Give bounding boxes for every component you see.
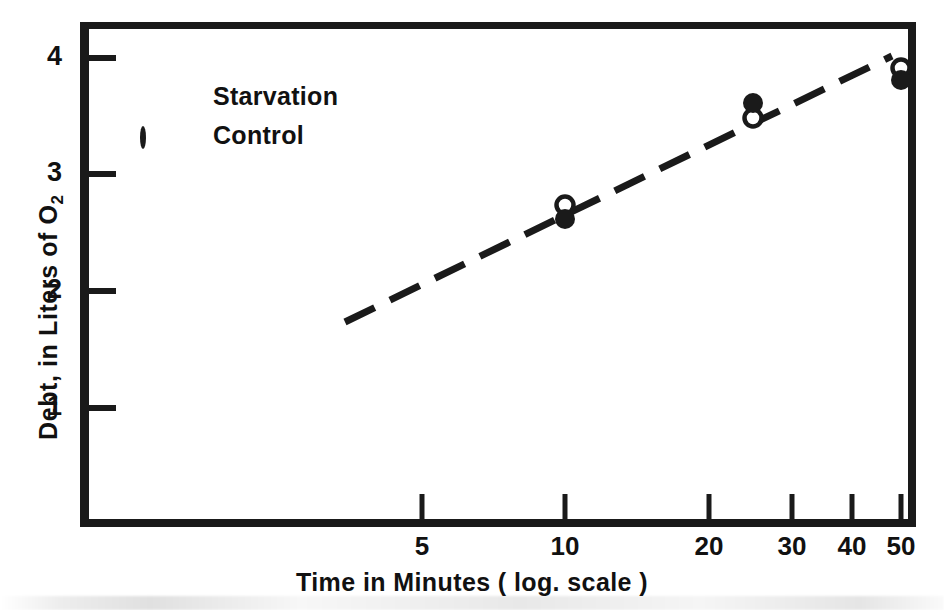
y-tick-label-4: 4 xyxy=(28,41,62,72)
x-tick-label-30: 30 xyxy=(762,531,822,562)
x-tick-label-50: 50 xyxy=(871,531,931,562)
y-tick-label-3: 3 xyxy=(28,157,62,188)
open-circle-icon xyxy=(140,129,146,147)
legend-label-starvation: Starvation xyxy=(213,82,338,111)
x-tick-label-20: 20 xyxy=(679,531,739,562)
figure-container: 4 3 2 1 5 10 20 30 40 50 Debt, in Liters… xyxy=(0,0,944,610)
y-axis-title: Debt, in Liters of O2 xyxy=(34,194,68,440)
legend-label-control: Control xyxy=(213,121,304,150)
plot-frame xyxy=(80,22,916,527)
y-axis-title-subscript: 2 xyxy=(48,194,67,204)
y-axis-title-text: Debt, in Liters of O xyxy=(34,204,62,440)
x-tick-label-10: 10 xyxy=(535,531,595,562)
scan-artifact xyxy=(0,596,944,610)
x-axis-title: Time in Minutes ( log. scale ) xyxy=(0,568,944,597)
x-tick-label-5: 5 xyxy=(392,531,452,562)
